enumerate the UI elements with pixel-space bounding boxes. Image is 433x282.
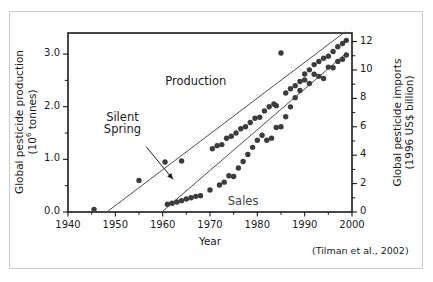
data-point bbox=[236, 165, 241, 170]
data-point bbox=[340, 57, 345, 62]
data-point bbox=[264, 138, 269, 143]
data-point bbox=[321, 76, 326, 81]
x-axis-title: Year bbox=[180, 236, 240, 248]
y2-tick-label-0: 0 bbox=[360, 205, 380, 216]
data-point bbox=[335, 59, 340, 64]
data-point bbox=[283, 114, 288, 119]
data-point bbox=[222, 179, 227, 184]
data-point bbox=[162, 159, 167, 164]
data-point bbox=[193, 194, 198, 199]
y2-tick-label-10: 10 bbox=[360, 63, 380, 74]
data-point bbox=[321, 56, 326, 61]
data-point bbox=[188, 195, 193, 200]
y-axis-title: Global pesticide production(106 tonnes) bbox=[14, 32, 38, 212]
data-point bbox=[297, 79, 302, 84]
data-point bbox=[278, 50, 283, 55]
y2-tick-label-2: 2 bbox=[360, 177, 380, 188]
data-point bbox=[179, 198, 184, 203]
data-point bbox=[245, 152, 250, 157]
citation-text: (Tilman et al., 2002) bbox=[312, 246, 409, 257]
data-point bbox=[269, 135, 274, 140]
annotation-silent-spring: SilentSpring bbox=[90, 111, 154, 137]
data-point bbox=[316, 74, 321, 79]
data-point bbox=[219, 142, 224, 147]
series-label-sales: Sales bbox=[209, 195, 277, 208]
data-point bbox=[293, 95, 298, 100]
x-tick-label-1950: 1950 bbox=[99, 219, 131, 230]
data-point bbox=[169, 200, 174, 205]
y2-tick-label-8: 8 bbox=[360, 91, 380, 102]
data-point bbox=[91, 207, 96, 212]
data-point bbox=[174, 199, 179, 204]
data-point bbox=[243, 124, 248, 129]
x-tick-label-1970: 1970 bbox=[194, 219, 226, 230]
data-point bbox=[283, 90, 288, 95]
data-point bbox=[302, 77, 307, 82]
data-point bbox=[293, 83, 298, 88]
y-axis-title-line-1: Global pesticide production bbox=[14, 32, 26, 212]
annotation-arrow-shaft bbox=[146, 147, 173, 180]
data-point bbox=[335, 44, 340, 49]
x-tick-label-1960: 1960 bbox=[147, 219, 179, 230]
data-point bbox=[233, 130, 238, 135]
x-tick-label-1990: 1990 bbox=[289, 219, 321, 230]
data-point bbox=[210, 146, 215, 151]
data-point bbox=[226, 173, 231, 178]
data-point bbox=[274, 125, 279, 130]
data-point bbox=[238, 126, 243, 131]
data-point bbox=[250, 145, 255, 150]
y2-tick-label-4: 4 bbox=[360, 148, 380, 159]
data-point bbox=[198, 193, 203, 198]
data-point bbox=[302, 71, 307, 76]
figure-container: 19401950196019701980199020000.01.02.03.0… bbox=[0, 0, 433, 282]
data-point bbox=[214, 143, 219, 148]
y2-axis-title-line-1: Global pesticide imports bbox=[392, 30, 404, 215]
data-point bbox=[259, 133, 264, 138]
y2-axis-title: Global pesticide imports(1996 US$ billio… bbox=[392, 30, 416, 215]
annotation-line-2: Spring bbox=[90, 123, 154, 136]
data-point bbox=[326, 64, 331, 69]
y-axis-title-line-2: (106 tonnes) bbox=[26, 32, 38, 212]
data-point bbox=[326, 53, 331, 58]
data-point bbox=[344, 52, 349, 57]
data-point bbox=[316, 59, 321, 64]
data-point bbox=[207, 187, 212, 192]
data-point bbox=[274, 103, 279, 108]
annotation-arrow-group bbox=[146, 147, 173, 180]
data-point bbox=[231, 174, 236, 179]
data-point bbox=[184, 196, 189, 201]
data-point bbox=[278, 124, 283, 129]
data-point bbox=[252, 116, 257, 121]
data-point bbox=[307, 81, 312, 86]
data-point bbox=[330, 49, 335, 54]
data-point bbox=[248, 120, 253, 125]
y2-axis-title-line-2: (1996 US$ billion) bbox=[404, 30, 416, 215]
data-point bbox=[179, 158, 184, 163]
series-label-production: Production bbox=[162, 75, 230, 88]
data-point bbox=[257, 115, 262, 120]
data-point bbox=[288, 86, 293, 91]
x-tick-label-1940: 1940 bbox=[52, 219, 84, 230]
data-point bbox=[224, 136, 229, 141]
x-tick-label-1980: 1980 bbox=[241, 219, 273, 230]
data-point bbox=[311, 71, 316, 76]
data-point bbox=[266, 104, 271, 109]
data-point bbox=[229, 133, 234, 138]
data-point bbox=[297, 88, 302, 93]
data-point bbox=[307, 67, 312, 72]
y2-tick-label-12: 12 bbox=[360, 35, 380, 46]
data-point bbox=[262, 108, 267, 113]
data-point bbox=[288, 104, 293, 109]
data-point bbox=[255, 138, 260, 143]
y2-tick-label-6: 6 bbox=[360, 120, 380, 131]
data-point bbox=[311, 62, 316, 67]
data-point bbox=[136, 178, 141, 183]
data-point bbox=[330, 65, 335, 70]
data-point bbox=[217, 182, 222, 187]
x-tick-label-2000: 2000 bbox=[336, 219, 368, 230]
data-point bbox=[165, 201, 170, 206]
data-point bbox=[344, 38, 349, 43]
data-point bbox=[240, 159, 245, 164]
